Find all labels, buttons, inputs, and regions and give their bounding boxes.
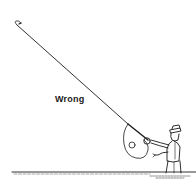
- fly-hook-icon: [15, 21, 21, 25]
- slack-line-loop: [124, 124, 149, 158]
- fly-line: [17, 25, 128, 124]
- water-surface: [12, 172, 196, 178]
- caption-label: Wrong: [55, 94, 84, 104]
- fisherman: [151, 125, 181, 173]
- illustration-canvas: Wrong: [0, 0, 196, 185]
- fishing-rod: [128, 124, 148, 140]
- fly-fishing-illustration: [0, 0, 196, 185]
